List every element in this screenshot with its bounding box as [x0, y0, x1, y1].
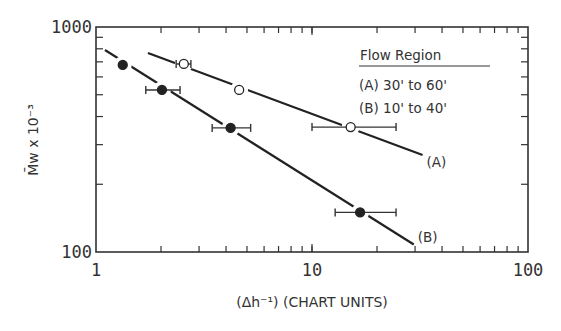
plot-frame — [96, 27, 528, 252]
open-circle-marker — [346, 123, 355, 132]
x-tick-label: 100 — [513, 260, 544, 280]
y-axis-title: M̄w x 10⁻³ — [24, 104, 41, 176]
series-label: (A) — [427, 154, 447, 170]
axis-ticks — [96, 27, 528, 252]
open-circle-marker — [179, 59, 188, 68]
x-axis-title: (Δh⁻¹) (CHART UNITS) — [236, 294, 388, 310]
x-tick-label: 1 — [91, 260, 101, 280]
y-tick-label: 1000 — [51, 17, 92, 37]
filled-circle-marker — [118, 60, 127, 69]
x-tick-label: 10 — [302, 260, 322, 280]
chart: 1101001001000 (A)(B) (Δh⁻¹) (CHART UNITS… — [0, 0, 561, 331]
legend-entry-b: (B) 10' to 40' — [359, 100, 447, 116]
y-tick-label: 100 — [61, 242, 92, 262]
legend-title: Flow Region — [360, 47, 441, 63]
filled-circle-marker — [226, 123, 235, 132]
legend-entry-a: (A) 30' to 60' — [359, 77, 447, 93]
filled-circle-marker — [356, 208, 365, 217]
open-circle-marker — [235, 85, 244, 94]
legend: Flow Region (A) 30' to 60' (B) 10' to 40… — [359, 47, 490, 116]
series-label: (B) — [418, 229, 438, 245]
plot-area — [96, 27, 528, 252]
filled-circle-marker — [157, 85, 166, 94]
